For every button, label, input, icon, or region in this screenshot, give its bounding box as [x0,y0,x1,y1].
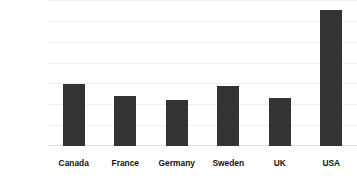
bar-sweden [217,86,239,146]
bar-chart-figure: $1,400$1,200$1,000$800$600$400$200 Canad… [0,0,357,180]
plot-area [48,0,357,146]
y-axis: $1,400$1,200$1,000$800$600$400$200 [0,0,45,180]
bar-canada [63,84,85,146]
x-tick-label-germany: Germany [159,158,195,168]
bar-usa [320,10,342,146]
x-tick-label-canada: Canada [59,158,89,168]
bar-france [114,96,136,146]
x-tick-label-uk: UK [274,158,286,168]
x-tick-label-usa: USA [322,158,340,168]
x-axis: CanadaFranceGermanySwedenUKUSA [48,146,357,180]
x-tick-label-france: France [112,158,139,168]
bar-uk [269,98,291,146]
bar-germany [166,100,188,146]
x-tick-label-sweden: Sweden [212,158,244,168]
bar-series [48,0,357,146]
